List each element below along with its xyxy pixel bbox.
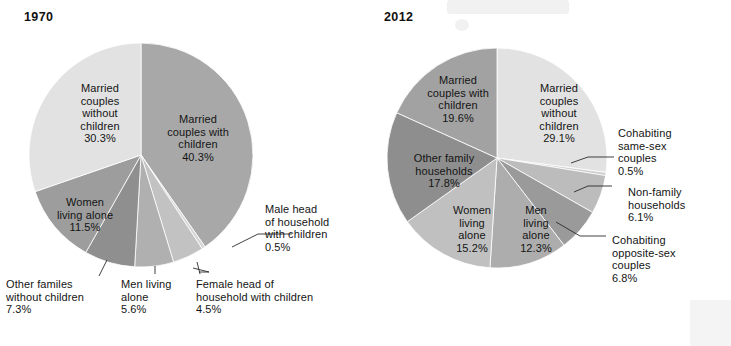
slice-label-married-without-children-2012: Married couples without children 29.1% [518,82,600,145]
slice-label-married-with-children-1970: Married couples with children 40.3% [152,113,244,163]
leader-female-head [193,268,209,272]
leader-non-family [574,186,588,192]
leader-cohab-same-sex [571,157,588,163]
slice-label-female-head-1970: Female head of household with children 4… [196,278,346,316]
slice-label-non-family-households-2012: Non-family households 6.1% [628,186,712,224]
slice-label-other-family-households-2012: Other family households 17.8% [394,152,494,190]
slice-label-cohabiting-same-sex-2012: Cohabiting same-sex couples 0.5% [618,127,698,177]
leader-female-head-3 [197,262,200,274]
chart-panel-2012: 2012 Married couples with children 19.6%… [366,0,731,346]
slice-label-women-living-alone-1970: Women living alone 11.5% [38,196,132,234]
leader-male-head [232,234,258,247]
leader-other-familes [99,260,107,276]
figure-root: 1970 Married couples without children 30… [0,0,731,346]
slice-label-married-without-children-1970: Married couples without children 30.3% [57,82,143,145]
slice-label-married-with-children-2012: Married couples with children 19.6% [408,74,508,124]
slice-label-male-head-1970: Male head of household with children 0.5… [265,203,361,253]
slice-label-cohabiting-opposite-sex-2012: Cohabiting opposite-sex couples 6.8% [612,234,710,284]
slice-label-women-living-alone-2012: Women living alone 15.2% [443,204,501,254]
slice-label-other-familes-1970: Other familes without children 7.3% [6,278,118,316]
chart-panel-1970: 1970 Married couples without children 30… [0,0,366,346]
slice-label-men-living-alone-1970: Men living alone 5.6% [121,278,193,316]
slice-label-men-living-alone-2012: Men living alone 12.3% [509,204,563,254]
